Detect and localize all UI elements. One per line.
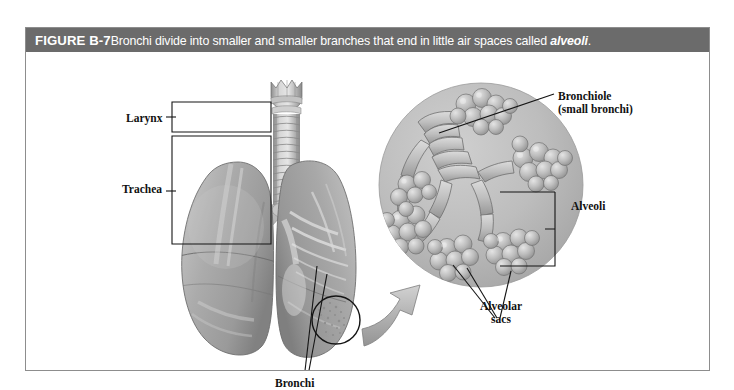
label-alveolar-sacs: Alveolar sacs	[456, 300, 546, 325]
figure-container: FIGURE B-7Bronchi divide into smaller an…	[25, 27, 710, 371]
figure-number: FIGURE B-7	[35, 33, 111, 48]
figure-caption: FIGURE B-7Bronchi divide into smaller an…	[35, 33, 591, 48]
label-bronchi: Bronchi	[275, 377, 314, 390]
figure-caption-italic-term: alveoli	[550, 34, 588, 48]
label-bronchiole: Bronchiole (small bronchi)	[558, 90, 633, 115]
label-bronchiole-line2: (small bronchi)	[558, 103, 633, 116]
lung-right-illustration	[276, 161, 360, 357]
figure-caption-text: Bronchi divide into smaller and smaller …	[111, 34, 551, 48]
label-alveolar-sacs-line2: sacs	[456, 313, 546, 326]
magnification-arrow	[362, 285, 420, 346]
label-alveoli: Alveoli	[571, 200, 606, 213]
lung-left-illustration	[176, 162, 276, 355]
larynx-illustration	[271, 80, 302, 114]
label-larynx: Larynx	[126, 112, 162, 125]
alveoli-inset	[379, 83, 583, 287]
larynx-bracket	[172, 102, 271, 132]
figure-caption-tail: .	[588, 34, 591, 48]
figure-title-bar: FIGURE B-7Bronchi divide into smaller an…	[26, 28, 709, 52]
label-bronchiole-line1: Bronchiole	[558, 90, 633, 103]
label-trachea: Trachea	[122, 183, 162, 196]
label-alveolar-sacs-line1: Alveolar	[456, 300, 546, 313]
